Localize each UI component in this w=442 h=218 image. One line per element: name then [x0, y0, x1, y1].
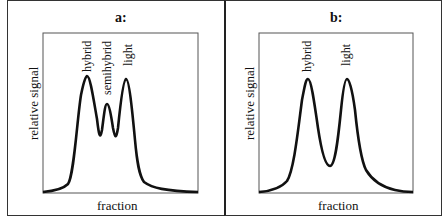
panel-a-x-axis-label: fraction [97, 198, 137, 214]
peak-label-semihybrid-a: semihybrid [100, 41, 115, 95]
peak-label-hybrid-b: hybrid [300, 41, 315, 72]
panel-a-y-axis-label: relative signal [26, 67, 42, 140]
peak-label-light-b: light [339, 44, 354, 66]
peak-label-hybrid-a: hybrid [80, 41, 95, 72]
panel-b-curve [259, 79, 413, 192]
panel-a-title: a: [115, 10, 127, 26]
panel-b-plot-area [259, 33, 413, 193]
panel-b-y-axis-label: relative signal [242, 67, 258, 140]
peak-label-light-a: light [121, 44, 136, 66]
panel-a-curve [43, 76, 198, 192]
panel-b-x-axis-label: fraction [318, 198, 358, 214]
panel-b-title: b: [330, 10, 342, 26]
